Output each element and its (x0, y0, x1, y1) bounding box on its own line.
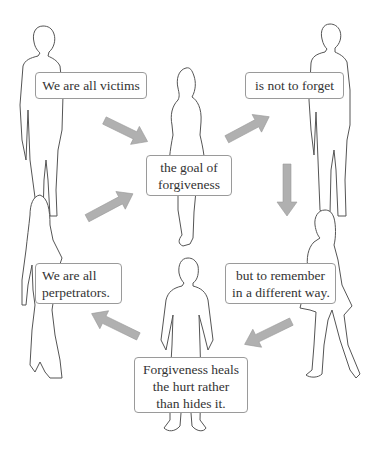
arrow-victims-to-goal (100, 111, 152, 150)
arrow-not-forget-to-remember (277, 164, 297, 216)
node-victims-line-1: We are all victims (42, 77, 140, 94)
node-victims: We are all victims (35, 72, 147, 99)
node-not-forget: is not to forget (245, 72, 344, 99)
node-goal-line-1: the goal of (153, 159, 225, 176)
arrow-perpetrators-to-goal (82, 185, 137, 227)
node-goal: the goal of forgiveness (146, 155, 232, 196)
node-remember-line-1: but to remember (232, 267, 329, 284)
arrow-remember-to-heals (240, 313, 296, 354)
node-heals-line-3: than hides it. (141, 395, 241, 412)
node-perpetrators: We are all perpetrators. (35, 263, 122, 304)
node-not-forget-line-1: is not to forget (252, 77, 337, 94)
node-remember-line-2: in a different way. (232, 284, 329, 301)
node-heals: Forgiveness heals the hurt rather than h… (134, 357, 248, 413)
node-heals-line-1: Forgiveness heals (141, 361, 241, 378)
node-perpetrators-line-2: perpetrators. (42, 284, 115, 301)
node-remember: but to remember in a different way. (225, 263, 336, 304)
node-heals-line-2: the hurt rather (141, 378, 241, 395)
node-perpetrators-line-1: We are all (42, 267, 115, 284)
arrow-goal-to-not-forget (222, 108, 274, 148)
arrow-heals-to-perpetrators (87, 305, 143, 346)
node-goal-line-2: forgiveness (153, 176, 225, 193)
